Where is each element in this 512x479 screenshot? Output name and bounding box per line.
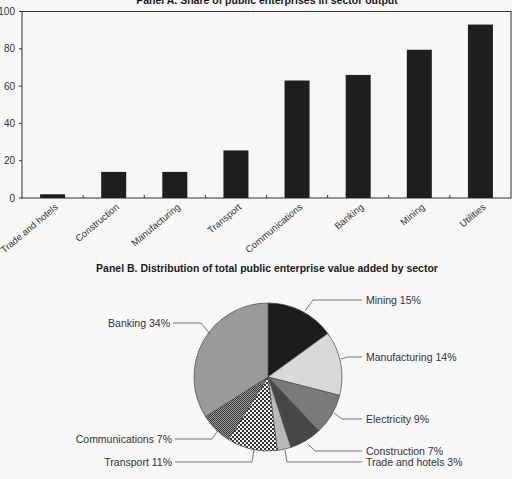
panel-a-category-labels: Trade and hotelsConstructionManufacturin… — [0, 201, 488, 255]
bar-communications — [285, 81, 310, 198]
x-category-label: Transport — [205, 201, 243, 236]
leader-line — [173, 323, 210, 334]
y-tick-label: 100 — [0, 6, 15, 17]
bar-trade-and-hotels — [40, 194, 65, 198]
x-category-label: Communications — [243, 201, 304, 255]
bar-construction — [101, 172, 126, 198]
leader-line — [175, 450, 254, 462]
panel-a-plot-frame — [22, 12, 511, 199]
pie-label-communications: Communications 7% — [76, 433, 172, 445]
bar-manufacturing — [162, 172, 187, 198]
y-tick-label: 40 — [4, 118, 16, 129]
panel-a-bar-chart: Panel A. Share of public enterprises in … — [0, 0, 511, 255]
bar-utilities — [468, 25, 493, 198]
panel-a-bars — [40, 25, 493, 198]
pie-label-manufacturing: Manufacturing 14% — [366, 351, 456, 363]
pie-label-mining: Mining 15% — [366, 294, 421, 306]
figure-canvas: Panel A. Share of public enterprises in … — [0, 0, 512, 479]
leader-line — [175, 430, 218, 439]
panel-a-y-axis: 020406080100 — [0, 6, 22, 204]
bar-transport — [223, 150, 248, 198]
x-category-label: Construction — [73, 201, 121, 244]
y-tick-label: 80 — [4, 43, 16, 54]
leader-line — [334, 413, 362, 419]
x-category-label: Utilities — [457, 201, 488, 229]
pie-label-electricity: Electricity 9% — [366, 413, 429, 425]
x-category-label: Manufacturing — [129, 201, 182, 248]
x-category-label: Trade and hotels — [0, 201, 60, 255]
x-category-label: Mining — [398, 201, 427, 227]
leader-line — [285, 450, 362, 462]
y-tick-label: 60 — [4, 81, 16, 92]
panel-b-title: Panel B. Distribution of total public en… — [96, 262, 438, 274]
panel-b-pie-chart: Panel B. Distribution of total public en… — [76, 262, 463, 468]
x-category-label: Banking — [332, 201, 365, 232]
panel-b-pie — [194, 303, 342, 451]
bar-banking — [346, 75, 371, 198]
leader-line — [308, 444, 362, 451]
pie-label-transport: Transport 11% — [104, 456, 172, 468]
y-tick-label: 0 — [9, 193, 15, 204]
pie-label-trade-and-hotels: Trade and hotels 3% — [366, 456, 463, 468]
panel-a-title: Panel A. Share of public enterprises in … — [136, 0, 398, 6]
leader-line — [341, 357, 362, 359]
figure: Panel A. Share of public enterprises in … — [0, 0, 512, 479]
bar-mining — [407, 50, 432, 198]
pie-label-banking: Banking 34% — [108, 317, 170, 329]
y-tick-label: 20 — [4, 155, 16, 166]
leader-line — [305, 300, 362, 311]
